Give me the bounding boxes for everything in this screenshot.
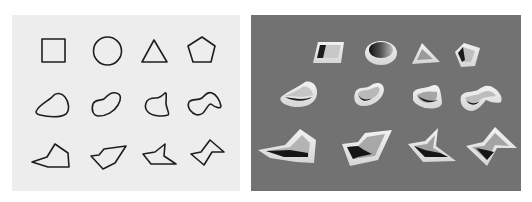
- blob-3-shape: [145, 93, 168, 116]
- polygon-3-3d-shape: [408, 128, 456, 162]
- outline-shapes-svg: [12, 15, 240, 191]
- pentagon-shape: [188, 37, 215, 62]
- outline-shapes-panel: [12, 15, 240, 191]
- polygon-1-3d-shape: [258, 129, 316, 163]
- square-shape: [42, 39, 65, 62]
- polygon-4-shape: [191, 140, 224, 165]
- rendered-3d-shapes-panel: [251, 15, 521, 191]
- blob-4-3d-shape: [461, 86, 502, 111]
- triangle-3d-shape: [412, 43, 440, 64]
- polygon-3-shape: [143, 144, 176, 164]
- circle-shape: [94, 37, 122, 65]
- blob-1-shape: [36, 93, 69, 116]
- blob-3-3d-shape: [413, 85, 442, 108]
- blob-2-3d-shape: [354, 83, 384, 106]
- triangle-shape: [142, 40, 167, 62]
- polygon-2-shape: [91, 146, 126, 169]
- polygon-4-3d-shape: [466, 127, 517, 166]
- polygon-1-shape: [32, 144, 69, 167]
- rendered-3d-shapes-svg: [251, 15, 521, 191]
- blob-4-shape: [188, 92, 221, 114]
- circle-3d-shape: [365, 41, 397, 65]
- blob-2-shape: [92, 93, 120, 116]
- polygon-2-3d-shape: [342, 130, 392, 166]
- square-3d-shape: [313, 42, 344, 63]
- blob-1-3d-shape: [280, 82, 317, 107]
- pentagon-3d-shape: [455, 43, 480, 67]
